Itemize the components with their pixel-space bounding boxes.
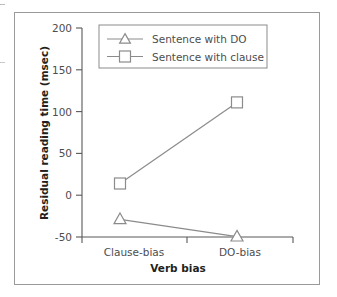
data-point-do-series-clause-bias (114, 213, 126, 224)
x-category-label-clause-bias: Clause-bias (104, 246, 165, 258)
data-point-clause-series-do-bias (232, 97, 243, 108)
y-tick-label-minus50: -50 (55, 231, 72, 243)
y-tick-label-100: 100 (52, 106, 72, 118)
y-axis-title: Residual reading time (msec) (38, 46, 50, 220)
legend-label-sentence-with-clause: Sentence with clause (152, 51, 264, 63)
y-tick-label-50: 50 (59, 147, 72, 159)
series-line-sentence-with-clause (120, 102, 237, 183)
series-line-sentence-with-do (120, 219, 237, 236)
chart-canvas: 200 150 100 50 0 -50 Residual reading ti… (0, 0, 337, 297)
y-tick-label-0: 0 (65, 189, 72, 201)
line-chart: 200 150 100 50 0 -50 Residual reading ti… (0, 0, 337, 297)
x-category-label-do-bias: DO-bias (219, 246, 261, 258)
y-tick-label-150: 150 (52, 64, 72, 76)
legend-marker-square-icon (120, 51, 131, 62)
legend-label-sentence-with-do: Sentence with DO (152, 33, 247, 45)
data-point-clause-series-clause-bias (115, 178, 126, 189)
y-tick-label-200: 200 (52, 22, 72, 34)
x-axis-title: Verb bias (150, 262, 205, 274)
